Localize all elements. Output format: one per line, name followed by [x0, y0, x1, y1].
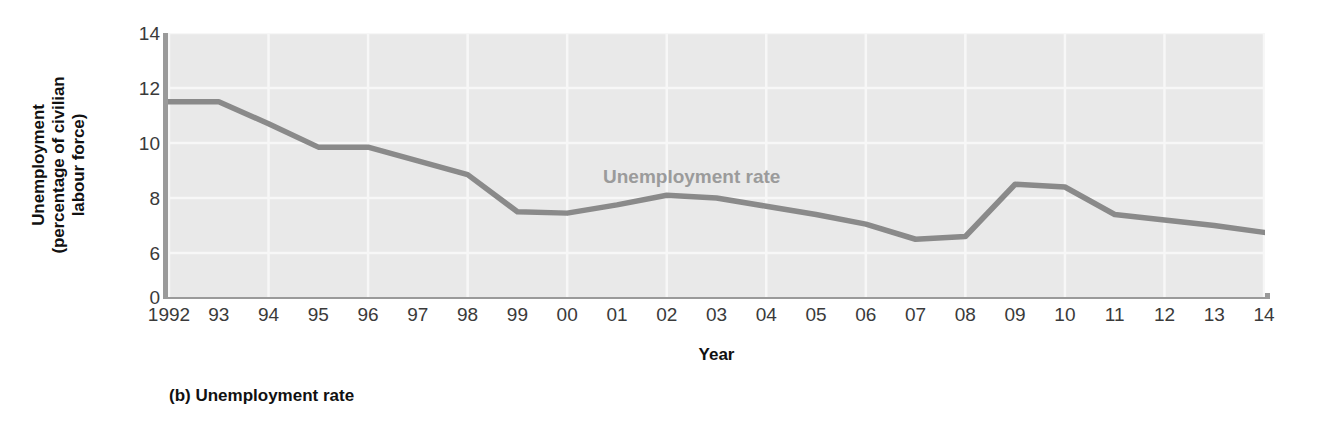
x-tick-label-95: 95 [308, 305, 329, 324]
x-tick-label-00: 00 [557, 305, 578, 324]
x-axis-tick-labels: 1992939495969798990001020304050607080910… [168, 305, 1265, 335]
x-tick-label-99: 99 [507, 305, 528, 324]
y-tick-label-8: 8 [116, 189, 160, 208]
y-tick-label-12: 12 [116, 79, 160, 98]
x-tick-label-07: 07 [905, 305, 926, 324]
series-inline-label: Unemployment rate [603, 166, 780, 188]
x-tick-label-13: 13 [1204, 305, 1225, 324]
x-tick-label-98: 98 [457, 305, 478, 324]
x-tick-label-14: 14 [1253, 305, 1274, 324]
x-tick-label-05: 05 [805, 305, 826, 324]
x-axis-title: Year [168, 345, 1265, 365]
y-tick-label-6: 6 [116, 244, 160, 263]
y-tick-label-14: 14 [116, 24, 160, 43]
x-tick-label-1992: 1992 [148, 305, 190, 324]
x-tick-label-02: 02 [656, 305, 677, 324]
x-tick-label-94: 94 [258, 305, 279, 324]
x-tick-label-12: 12 [1154, 305, 1175, 324]
x-tick-label-03: 03 [706, 305, 727, 324]
plot-area: Unemployment rate [168, 33, 1265, 297]
unemployment-rate-figure: Unemployment (percentage of civilian lab… [0, 0, 1318, 442]
gridlines [168, 33, 1265, 297]
plot-svg [168, 33, 1265, 297]
x-tick-label-11: 11 [1105, 305, 1125, 324]
figure-caption: (b) Unemployment rate [169, 386, 354, 406]
x-tick-label-96: 96 [358, 305, 379, 324]
y-tick-label-10: 10 [116, 134, 160, 153]
x-tick-label-93: 93 [208, 305, 229, 324]
x-tick-label-10: 10 [1054, 305, 1075, 324]
x-tick-label-08: 08 [955, 305, 976, 324]
x-tick-label-97: 97 [407, 305, 428, 324]
y-axis-title-line-1: Unemployment [29, 76, 49, 253]
x-tick-label-01: 01 [606, 305, 627, 324]
y-axis-title-line-2: (percentage of civilian [49, 76, 69, 253]
y-axis-title-line-3: labour force) [69, 76, 89, 253]
x-tick-label-06: 06 [855, 305, 876, 324]
x-tick-label-09: 09 [1005, 305, 1026, 324]
y-axis-tick-labels: 068101214 [112, 0, 160, 442]
y-axis-title: Unemployment (percentage of civilian lab… [24, 33, 94, 297]
x-tick-label-04: 04 [756, 305, 777, 324]
